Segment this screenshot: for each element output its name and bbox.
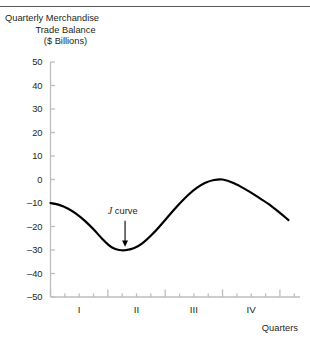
j-curve-annotation-text: Jcurve [108, 205, 138, 216]
x-axis [51, 290, 301, 298]
x-tick-label: IV [247, 304, 257, 315]
y-tick-label: –40 [27, 269, 43, 279]
data-series-line [51, 179, 289, 250]
y-tick-label: 40 [32, 81, 42, 91]
x-tick-label: I [78, 304, 81, 315]
y-tick-label: –30 [27, 245, 43, 255]
chart-annotations: Jcurve [108, 205, 138, 247]
x-tick-label: III [190, 304, 198, 315]
chart-plot-area: 50403020100–10–20–30–40–50 IIIIIIIV Jcur… [0, 0, 310, 342]
y-axis [51, 62, 56, 297]
y-tick-label: 10 [32, 151, 42, 161]
y-tick-label: 20 [32, 128, 42, 138]
y-tick-label: –20 [27, 222, 43, 232]
figure-container: Quarterly Merchandise Trade Balance ($ B… [0, 0, 310, 342]
x-tick-labels: IIIIIIIV [78, 304, 257, 315]
y-tick-label: 30 [32, 104, 42, 114]
j-curve-italic-j: J [108, 205, 113, 216]
y-tick-label: 50 [32, 57, 42, 67]
x-tick-label: II [134, 304, 139, 315]
j-curve-word: curve [115, 206, 138, 216]
x-axis-caption: Quarters [262, 323, 299, 333]
y-tick-label: –10 [27, 198, 43, 208]
y-tick-labels: 50403020100–10–20–30–40–50 [27, 57, 43, 302]
y-tick-label: –50 [27, 292, 43, 302]
series-path [51, 179, 289, 250]
y-tick-label: 0 [37, 175, 42, 185]
j-curve-arrow-head [122, 241, 128, 247]
